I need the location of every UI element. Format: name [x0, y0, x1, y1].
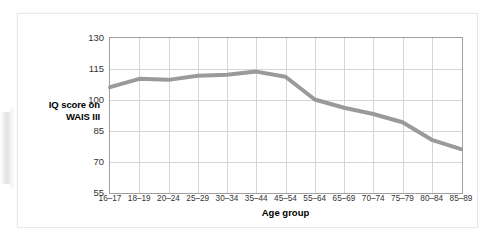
y-axis-tick-label: 85 [70, 125, 104, 136]
x-axis-tick-label: 18–19 [123, 194, 155, 203]
gridline-vertical [169, 38, 170, 193]
gridline-vertical [286, 38, 287, 193]
x-axis-tick-label: 70–74 [357, 194, 389, 203]
gridline-vertical [256, 38, 257, 193]
gridline-vertical [139, 38, 140, 193]
x-axis-tick-label: 25–29 [182, 194, 214, 203]
y-axis-title-line-2: WAIS III [18, 111, 100, 123]
x-axis-tick-label: 55–64 [299, 194, 331, 203]
y-axis-tick-label: 115 [70, 63, 104, 74]
y-axis-tick-label: 130 [70, 32, 104, 43]
x-axis-tick-label: 30–34 [211, 194, 243, 203]
gridline-vertical [315, 38, 316, 193]
x-axis-tick-label: 80–84 [416, 194, 448, 203]
x-axis-title: Age group [109, 207, 462, 218]
gridline-vertical [432, 38, 433, 193]
gridline-vertical [344, 38, 345, 193]
x-axis-tick-label: 75–79 [387, 194, 419, 203]
figure-root: IQ score on WAIS III 557085100115130 16–… [0, 0, 497, 242]
line-chart: IQ score on WAIS III 557085100115130 16–… [0, 0, 497, 242]
y-axis-tick-label: 100 [70, 94, 104, 105]
x-axis-tick-label: 35–44 [240, 194, 272, 203]
x-axis-tick-label: 20–24 [153, 194, 185, 203]
gridline-vertical [373, 38, 374, 193]
gridline-vertical [227, 38, 228, 193]
gridline-vertical [198, 38, 199, 193]
x-axis-tick-label: 16–17 [94, 194, 126, 203]
x-axis-tick-label: 85–89 [445, 194, 477, 203]
y-axis-tick-label: 70 [70, 156, 104, 167]
x-axis-tick-label: 65–69 [328, 194, 360, 203]
gridline-vertical [403, 38, 404, 193]
x-axis-tick-label: 45–54 [270, 194, 302, 203]
